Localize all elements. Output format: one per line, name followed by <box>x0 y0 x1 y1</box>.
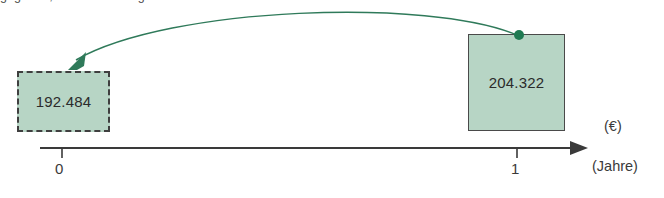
tick-label-1: 1 <box>511 160 519 177</box>
discount-arrowhead-icon <box>68 52 86 70</box>
discounting-timeline-diagram: gegeben, sodass sich ergibt: 192.484 204… <box>0 0 664 198</box>
tick-label-0: 0 <box>55 160 63 177</box>
axis-arrowhead-icon <box>570 141 588 155</box>
diagram-vector-overlay <box>0 0 664 198</box>
discount-arrow-icon <box>76 12 517 60</box>
time-axis-unit-label: (Jahre) <box>592 158 638 174</box>
anchor-dot-icon <box>514 30 524 40</box>
value-axis-unit-label: (€) <box>604 118 622 134</box>
